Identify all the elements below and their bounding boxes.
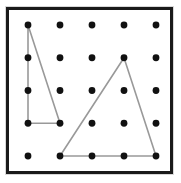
peg-r4-c1[interactable]: [57, 153, 64, 160]
right-band-triangle[interactable]: [60, 58, 156, 156]
peg-r3-c1[interactable]: [57, 120, 64, 127]
geoboard-canvas: [0, 0, 181, 183]
peg-r3-c2[interactable]: [89, 120, 96, 127]
peg-r4-c2[interactable]: [89, 153, 96, 160]
peg-r2-c4[interactable]: [153, 87, 160, 94]
peg-r4-c4[interactable]: [153, 153, 160, 160]
peg-r0-c3[interactable]: [121, 22, 128, 29]
peg-r2-c3[interactable]: [121, 87, 128, 94]
pegs-layer: [25, 22, 160, 160]
peg-r2-c0[interactable]: [25, 87, 32, 94]
peg-r4-c0[interactable]: [25, 153, 32, 160]
peg-r0-c0[interactable]: [25, 22, 32, 29]
peg-r1-c0[interactable]: [25, 54, 32, 61]
peg-r2-c2[interactable]: [89, 87, 96, 94]
peg-r3-c3[interactable]: [121, 120, 128, 127]
peg-r2-c1[interactable]: [57, 87, 64, 94]
peg-r3-c4[interactable]: [153, 120, 160, 127]
peg-r4-c3[interactable]: [121, 153, 128, 160]
peg-r0-c4[interactable]: [153, 22, 160, 29]
peg-r3-c0[interactable]: [25, 120, 32, 127]
left-band-triangle[interactable]: [28, 25, 60, 123]
peg-r0-c2[interactable]: [89, 22, 96, 29]
geoboard-figure: Geoboard with two rubber band shapes: [0, 0, 181, 183]
peg-r1-c3[interactable]: [121, 54, 128, 61]
peg-r0-c1[interactable]: [57, 22, 64, 29]
peg-r1-c4[interactable]: [153, 54, 160, 61]
peg-r1-c2[interactable]: [89, 54, 96, 61]
peg-r1-c1[interactable]: [57, 54, 64, 61]
